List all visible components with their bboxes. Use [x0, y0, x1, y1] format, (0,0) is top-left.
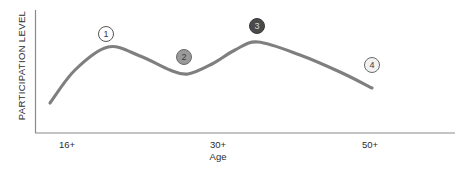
- x-tick-label-16plus: 16+: [59, 139, 75, 150]
- data-point-marker-1: 1: [98, 26, 114, 42]
- x-tick-label-50plus: 50+: [362, 139, 378, 150]
- y-axis-label: PARTICIPATION LEVEL: [16, 4, 27, 128]
- data-point-marker-4: 4: [364, 57, 380, 73]
- participation-level-chart: PARTICIPATION LEVEL 16+ 30+ 50+ Age 1 2 …: [0, 0, 463, 171]
- data-point-marker-3: 3: [249, 18, 265, 34]
- x-axis-title: Age: [210, 151, 227, 162]
- data-point-marker-2: 2: [176, 49, 192, 65]
- participation-curve: [50, 42, 372, 103]
- x-tick-label-30plus: 30+: [210, 139, 226, 150]
